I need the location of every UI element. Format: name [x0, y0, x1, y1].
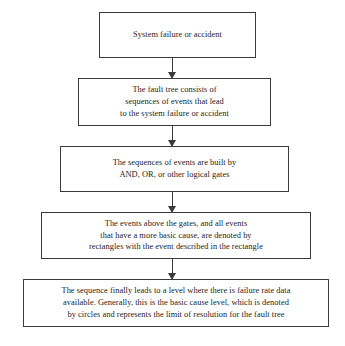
rectangles-events-node: The events above the gates, and all even… [41, 212, 311, 259]
node-text-line: available. Generally, this is the basic … [63, 297, 289, 309]
node-text-line: to the system failure or accident [120, 108, 229, 120]
node-text-line: System failure or accident [133, 29, 222, 41]
basic-cause-circles-node: The sequence finally leads to a level wh… [23, 279, 329, 327]
node-text-line: The sequences of events are built by [113, 157, 237, 169]
node-text-line: The fault tree consists of [132, 84, 216, 96]
arrow-node1-to-node2 [172, 58, 173, 78]
arrow-node3-to-node4 [172, 192, 173, 212]
arrow-node2-to-node3 [172, 126, 173, 146]
node-text-line: AND, OR, or other logical gates [119, 169, 229, 181]
node-text-line: The events above the gates, and all even… [105, 218, 248, 230]
system-failure-node: System failure or accident [99, 12, 256, 58]
logical-gates-node: The sequences of events are built by AND… [60, 146, 289, 192]
node-text-line: that have a more basic cause, are denote… [100, 230, 251, 242]
fault-tree-consists-node: The fault tree consists of sequences of … [78, 78, 271, 126]
node-text-line: rectangles with the event described in t… [89, 241, 263, 253]
node-text-line: The sequence finally leads to a level wh… [61, 285, 290, 297]
fault-tree-flowchart: System failure or accident The fault tre… [0, 0, 345, 346]
node-text-line: by circles and represents the limit of r… [67, 309, 284, 321]
arrow-node4-to-node5 [172, 259, 173, 279]
node-text-line: sequences of events that lead [125, 96, 224, 108]
